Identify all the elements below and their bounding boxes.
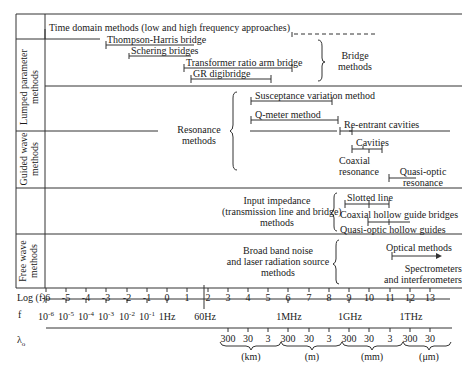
spectro-line1: Spectrometers: [360, 263, 462, 274]
lambda-tick: 3: [319, 333, 339, 344]
lambda-tick: 300: [400, 333, 420, 344]
bridge-methods-label: Bridge methods: [330, 50, 380, 72]
coaxial-line1: Coaxial: [339, 155, 379, 166]
thompson-harris-label: Thompson-Harris bridge: [107, 34, 206, 45]
category-lumped-parameter: Lumped parameter methods: [18, 39, 44, 135]
cavities-label: Cavities: [356, 137, 389, 148]
f-tick-60hz: 60Hz: [190, 311, 220, 322]
lambda-tick: 300: [278, 333, 298, 344]
quasi-line1: Quasi-optic: [394, 166, 452, 177]
broad-band-line3: methods: [222, 267, 334, 278]
broad-band-label: Broad band noise and laser radiation sou…: [222, 245, 334, 278]
category-label-line1: Guided wave: [18, 123, 29, 195]
log-tick: 10: [361, 292, 377, 303]
f-tick-base: 10: [38, 311, 48, 322]
lambda-tick: 30: [299, 333, 319, 344]
input-impedance-line3: methods: [222, 217, 332, 228]
log-tick: -2: [119, 292, 135, 303]
log-tick: 0: [159, 292, 175, 303]
lambda-unit-m: (m): [297, 351, 327, 362]
f-tick-base: 10: [139, 311, 149, 322]
f-tick-base: 10: [98, 311, 108, 322]
f-tick-1ghz: 1GHz: [335, 311, 365, 322]
lambda-tick: 3: [258, 333, 278, 344]
lambda-tick: 30: [359, 333, 379, 344]
resonance-line2: methods: [164, 135, 234, 146]
coaxial-resonance-label: Coaxial resonance: [339, 155, 379, 177]
log-tick: 1: [179, 292, 195, 303]
f-tick-base: 10: [78, 311, 88, 322]
slotted-line-label: Slotted line: [347, 192, 393, 203]
input-impedance-line1: Input impedance: [222, 195, 332, 206]
bridge-methods-line2: methods: [330, 61, 380, 72]
bridge-methods-line1: Bridge: [330, 50, 380, 61]
broad-band-line1: Broad band noise: [222, 245, 334, 256]
log-tick: 11: [382, 292, 398, 303]
lambda-axis-label: λo: [17, 334, 25, 350]
f-tick-1thz: 1THz: [396, 311, 426, 322]
spectrometers-label: Spectrometers and interferometers: [360, 263, 462, 285]
f-tick-base: 10: [119, 311, 129, 322]
log-tick: -1: [139, 292, 155, 303]
category-label-line1: Lumped parameter: [18, 39, 29, 135]
log-tick: 9: [341, 292, 357, 303]
quasi-optic-hollow-label: Quasi-optic hollow guides: [340, 224, 446, 235]
log-tick: 13: [422, 292, 438, 303]
log-tick: -3: [98, 292, 114, 303]
category-label-line2: methods: [28, 228, 39, 294]
log-tick: 12: [402, 292, 418, 303]
lambda-unit-km: (km): [236, 351, 266, 362]
quasi-optic-resonance-label: Quasi-optic resonance: [394, 166, 452, 188]
lambda-unit-mm: (mm): [357, 351, 387, 362]
schering-label: Schering bridges: [131, 45, 199, 56]
log-tick: 5: [260, 292, 276, 303]
log-tick: -5: [58, 292, 74, 303]
category-label-line1: Free wave: [17, 228, 28, 294]
log-tick: -4: [78, 292, 94, 303]
f-tick-exp: -3: [108, 310, 114, 318]
resonance-methods-label: Resonance methods: [164, 124, 234, 146]
category-guided-wave: Guided wave methods: [18, 123, 44, 195]
log-tick: 6: [280, 292, 296, 303]
category-free-wave: Free wave methods: [17, 228, 43, 294]
lambda-unit-um: (μm): [414, 351, 444, 362]
log-tick: 7: [301, 292, 317, 303]
log-tick: 3: [220, 292, 236, 303]
log-tick: 4: [240, 292, 256, 303]
optical-methods-label: Optical methods: [386, 242, 452, 253]
f-tick-1hz: 1Hz: [155, 311, 179, 322]
reentrant-label: Re-entrant cavities: [344, 119, 419, 130]
log-tick: 8: [321, 292, 337, 303]
f-axis-label: f: [18, 309, 21, 320]
lambda-tick: 3: [380, 333, 400, 344]
f-tick-1mhz: 1MHz: [274, 311, 304, 322]
quasi-line2: resonance: [394, 177, 452, 188]
log-tick: -6: [38, 292, 54, 303]
resonance-line1: Resonance: [164, 124, 234, 135]
lambda-subscript: o: [22, 340, 26, 348]
broad-band-line2: and laser radiation source: [222, 256, 334, 267]
input-impedance-line2: (transmission line and bridge): [222, 206, 332, 217]
category-label-line2: methods: [29, 123, 40, 195]
f-tick-base: 10: [58, 311, 68, 322]
input-impedance-label: Input impedance (transmission line and b…: [222, 195, 332, 228]
susceptance-label: Susceptance variation method: [255, 90, 375, 101]
time-domain-label: Time domain methods (low and high freque…: [49, 22, 290, 33]
transformer-ratio-label: Transformer ratio arm bridge: [186, 57, 303, 68]
qmeter-label: Q-meter method: [255, 109, 321, 120]
gr-digibridge-label: GR digibridge: [193, 68, 251, 79]
lambda-tick: 300: [339, 333, 359, 344]
lambda-tick: 30: [238, 333, 258, 344]
log-tick: 2: [200, 292, 216, 303]
lambda-tick: 300: [218, 333, 238, 344]
spectro-line2: and interferometers: [360, 274, 462, 285]
coaxial-line2: resonance: [339, 166, 379, 177]
coaxial-hollow-label: Coaxial hollow guide bridges: [340, 209, 458, 220]
lambda-tick: 30: [420, 333, 440, 344]
category-label-line2: methods: [29, 39, 40, 135]
